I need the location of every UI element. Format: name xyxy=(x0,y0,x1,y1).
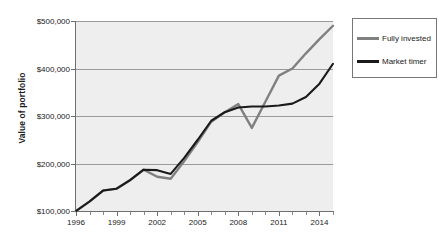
portfolio-value-line-chart: Value of portfolio $100,000$200,000$300,… xyxy=(0,0,439,248)
gridline xyxy=(76,21,333,22)
x-axis-tick-label: 2011 xyxy=(270,218,287,227)
x-axis-tick-label: 1996 xyxy=(67,218,85,227)
y-axis-tick-labels: $100,000$200,000$300,000$400,000$500,000 xyxy=(18,0,70,248)
x-axis-minor-tick xyxy=(103,212,104,215)
y-axis-tick-label: $100,000 xyxy=(18,207,70,216)
legend-item-fully-invested: Fully invested xyxy=(357,32,431,44)
legend-swatch-fully-invested xyxy=(357,37,379,40)
gridline xyxy=(76,164,333,165)
y-axis-tick xyxy=(71,211,76,212)
y-axis-tick xyxy=(71,164,76,165)
x-axis-minor-tick xyxy=(292,212,293,215)
y-axis-tick-label: $500,000 xyxy=(18,17,70,26)
legend-label-fully-invested: Fully invested xyxy=(382,34,431,43)
y-axis-tick-label: $200,000 xyxy=(18,159,70,168)
x-axis-minor-tick xyxy=(306,212,307,215)
x-axis-tick-label: 2008 xyxy=(229,218,247,227)
y-axis-tick xyxy=(71,21,76,22)
y-axis-tick xyxy=(71,69,76,70)
plot-area xyxy=(76,21,333,211)
x-axis-minor-tick xyxy=(144,212,145,215)
x-axis-line xyxy=(75,211,334,212)
x-axis-tick-label: 2005 xyxy=(189,218,207,227)
legend-item-market-timer: Market timer xyxy=(357,55,426,67)
x-axis-minor-tick xyxy=(211,212,212,215)
y-axis-tick-label: $400,000 xyxy=(18,64,70,73)
gridline xyxy=(76,116,333,117)
x-axis-tick-label: 2014 xyxy=(311,218,329,227)
legend-swatch-market-timer xyxy=(357,60,379,63)
x-axis-minor-tick xyxy=(90,212,91,215)
x-axis-minor-tick xyxy=(130,212,131,215)
x-axis-minor-tick xyxy=(171,212,172,215)
x-axis-minor-tick xyxy=(252,212,253,215)
x-axis-major-tick xyxy=(157,212,158,216)
chart-legend: Fully invested Market timer xyxy=(352,18,437,78)
x-axis-tick-label: 1999 xyxy=(108,218,126,227)
x-axis-minor-tick xyxy=(265,212,266,215)
legend-label-market-timer: Market timer xyxy=(382,57,426,66)
x-axis-minor-tick xyxy=(225,212,226,215)
x-axis-major-tick xyxy=(198,212,199,216)
x-axis-tick-label: 2002 xyxy=(148,218,166,227)
x-axis-major-tick xyxy=(279,212,280,216)
x-axis-major-tick xyxy=(238,212,239,216)
x-axis-major-tick xyxy=(117,212,118,216)
gridline xyxy=(76,69,333,70)
x-axis-minor-tick xyxy=(184,212,185,215)
x-axis-major-tick xyxy=(76,212,77,216)
y-axis-tick xyxy=(71,116,76,117)
x-axis-minor-tick xyxy=(333,212,334,215)
y-axis-tick-label: $300,000 xyxy=(18,112,70,121)
x-axis-major-tick xyxy=(319,212,320,216)
